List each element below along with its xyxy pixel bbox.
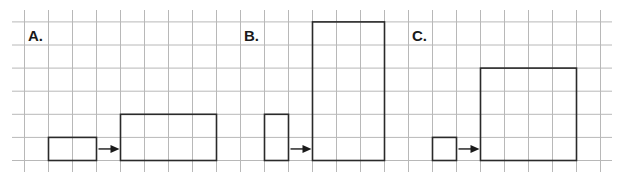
panel-a-label: A. <box>28 27 43 44</box>
panel-a: A. <box>28 27 217 161</box>
panel-b-label: B. <box>244 27 259 44</box>
grid-diagram: A. B. C. <box>0 0 621 175</box>
panel-c-label: C. <box>412 27 427 44</box>
panel-c-arrow-head-icon <box>471 145 480 153</box>
panel-c-original-rectangle <box>433 137 457 160</box>
panel-c: C. <box>412 27 577 161</box>
panel-b-arrow-head-icon <box>303 145 312 153</box>
panel-a-arrow-head-icon <box>111 145 120 153</box>
